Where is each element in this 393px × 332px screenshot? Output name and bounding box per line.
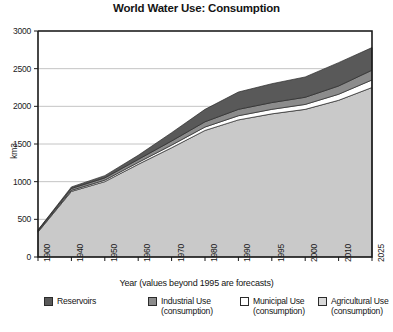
- x-tick-label: 2000: [309, 244, 319, 262]
- y-tick-label: 3000: [1, 26, 31, 36]
- y-tick-label: 500: [1, 214, 31, 224]
- chart-legend: ReservoirsIndustrial Use (consumption)Mu…: [0, 296, 393, 330]
- x-tick-label: 1980: [209, 244, 219, 262]
- x-axis-label: Year (values beyond 1995 are forecasts): [0, 278, 393, 288]
- y-axis-label: km3: [9, 131, 19, 171]
- legend-item[interactable]: Industrial Use (consumption): [148, 296, 213, 316]
- legend-swatch-icon: [44, 297, 53, 306]
- legend-label: Industrial Use (consumption): [161, 296, 213, 316]
- legend-swatch-icon: [148, 297, 157, 306]
- x-tick-label: 1900: [42, 244, 52, 262]
- legend-swatch-icon: [240, 297, 249, 306]
- legend-swatch-icon: [318, 297, 327, 306]
- x-tick-label: 2010: [343, 244, 353, 262]
- legend-label: Municipal Use (consumption): [253, 296, 305, 316]
- legend-item[interactable]: Agricultural Use (consumption): [318, 296, 388, 316]
- x-tick-label: 1970: [176, 244, 186, 262]
- x-tick-label: 1950: [109, 244, 119, 262]
- x-tick-label: 1960: [142, 244, 152, 262]
- x-tick-label: 1940: [75, 244, 85, 262]
- legend-item[interactable]: Municipal Use (consumption): [240, 296, 305, 316]
- x-tick-label: 1995: [276, 244, 286, 262]
- area-series-group: [38, 48, 372, 257]
- y-tick-label: 2500: [1, 64, 31, 74]
- y-tick-label: 1000: [1, 177, 31, 187]
- y-tick-label: 2000: [1, 101, 31, 111]
- plot-area: 050010001500200025003000 190019401950196…: [0, 0, 393, 332]
- x-tick-label: 2025: [376, 244, 386, 262]
- chart-figure: World Water Use: Consumption 05001000150…: [0, 0, 393, 332]
- legend-label: Agricultural Use (consumption): [331, 296, 388, 316]
- legend-label: Reservoirs: [57, 296, 96, 306]
- y-tick-label: 0: [1, 252, 31, 262]
- x-tick-label: 1990: [242, 244, 252, 262]
- legend-item[interactable]: Reservoirs: [44, 296, 96, 306]
